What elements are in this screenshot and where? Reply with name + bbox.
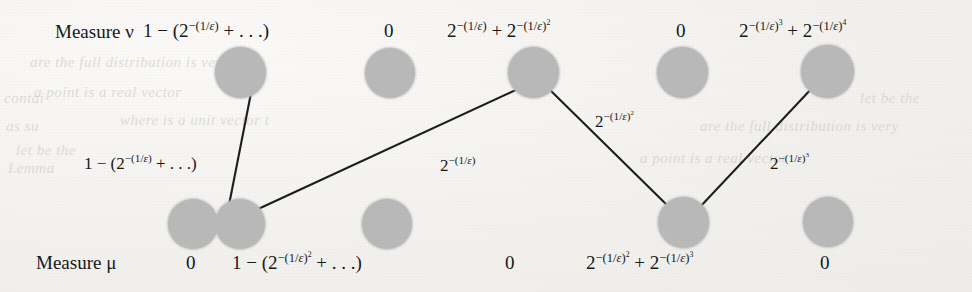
top-node-4[interactable] (657, 47, 708, 98)
bottom-mass-label-5: 0 (820, 253, 830, 272)
bottom-node-4[interactable] (658, 197, 709, 248)
row-label-mu-text: Measure μ (36, 252, 116, 273)
top-mass-label-2: 0 (384, 21, 394, 40)
bottom-mass-label-2: 1 − (2−(1/ε)2 + . . .) (232, 253, 362, 272)
bottom-node-5[interactable] (803, 197, 853, 247)
figure-canvas: are the full distribution is very a poin… (0, 0, 972, 292)
top-node-3[interactable] (508, 47, 559, 98)
edge-bottom2-top3 (256, 88, 520, 210)
top-mass-label-4: 0 (676, 21, 686, 40)
bottom-mass-label-4: 2−(1/ε)2 + 2−(1/ε)3 (586, 253, 693, 272)
top-mass-label-1: 1 − (2−(1/ε) + . . .) (143, 21, 269, 40)
bottom-node-3[interactable] (362, 199, 412, 249)
bottom-node-1[interactable] (168, 199, 218, 249)
edge-top3-bottom4 (548, 88, 670, 208)
edge-top1-bottom2 (228, 88, 252, 210)
top-mass-label-3: 2−(1/ε) + 2−(1/ε)2 (447, 21, 550, 40)
edge-label-3: 2−(1/ε)2 (595, 113, 634, 130)
bottom-mass-label-3: 0 (505, 253, 515, 272)
edge-label-2: 2−(1/ε) (440, 157, 475, 174)
bottom-mass-label-1: 0 (186, 253, 196, 272)
row-label-nu: Measure ν (55, 22, 134, 41)
bottom-node-2[interactable] (215, 199, 265, 249)
row-label-mu: Measure μ (36, 253, 116, 272)
edge-label-1: 1 − (2−(1/ε) + . . .) (84, 155, 197, 172)
edge-bottom4-top5 (699, 86, 814, 208)
top-node-2[interactable] (365, 48, 415, 98)
top-node-5[interactable] (801, 45, 854, 98)
top-mass-label-5: 2−(1/ε)3 + 2−(1/ε)4 (739, 21, 846, 40)
top-node-1[interactable] (215, 47, 266, 98)
row-label-nu-text: Measure ν (55, 21, 134, 42)
edge-label-4: 2−(1/ε)3 (770, 155, 809, 172)
edge-layer (0, 0, 972, 292)
